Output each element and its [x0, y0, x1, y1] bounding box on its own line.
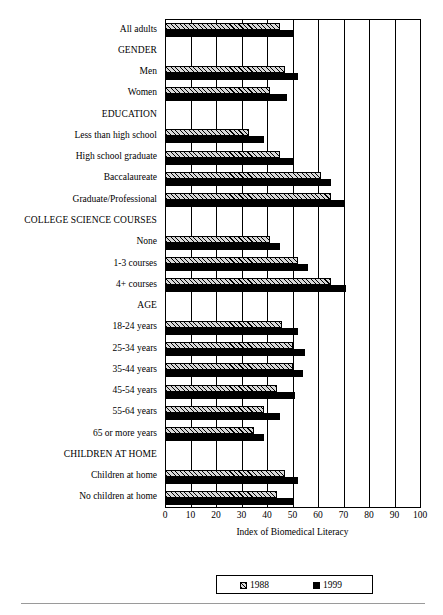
y-axis-label: AGE	[137, 300, 157, 311]
bar-1999	[165, 94, 287, 101]
y-axis-label: GENDER	[118, 45, 157, 56]
bar-row	[165, 321, 420, 335]
bar-1999	[165, 434, 264, 441]
x-tick-label-0: 0	[163, 509, 168, 521]
bar-row	[165, 108, 420, 122]
bar-row	[165, 491, 420, 505]
y-axis-label: Graduate/Professional	[73, 194, 157, 205]
legend-item-1988: 1988	[240, 579, 269, 591]
bar-row	[165, 342, 420, 356]
bar-row	[165, 87, 420, 101]
bar-1988	[165, 193, 331, 200]
bar-1999	[165, 370, 303, 377]
legend-label-1988: 1988	[250, 579, 269, 591]
x-tick-label-10: 10	[186, 509, 196, 521]
y-axis-label: Men	[140, 66, 157, 77]
bar-row	[165, 44, 420, 58]
bar-row	[165, 427, 420, 441]
bar-1999	[165, 243, 280, 250]
figure-container: All adultsGENDERMenWomenEDUCATIONLess th…	[0, 0, 443, 615]
x-tick-label-30: 30	[237, 509, 247, 521]
chart-legend: 1988 1999	[216, 575, 373, 594]
x-axis-title: Index of Biomedical Literacy	[165, 527, 420, 537]
gridline-100	[420, 19, 421, 508]
bar-1999	[165, 413, 280, 420]
bar-1988	[165, 129, 249, 136]
x-tick-label-90: 90	[390, 509, 400, 521]
y-axis-labels: All adultsGENDERMenWomenEDUCATIONLess th…	[0, 19, 161, 508]
bar-1999	[165, 264, 308, 271]
y-axis-label: 18-24 years	[112, 321, 157, 332]
plot-area	[165, 19, 420, 508]
bar-1999	[165, 30, 293, 37]
legend-item-1999: 1999	[313, 579, 342, 591]
y-axis-label: None	[136, 236, 157, 247]
bar-1999	[165, 285, 346, 292]
bar-1988	[165, 172, 321, 179]
bar-1988	[165, 257, 298, 264]
y-axis-label: 25-34 years	[112, 343, 157, 354]
x-tick-label-70: 70	[339, 509, 349, 521]
footer-divider	[21, 603, 425, 604]
bar-row	[165, 193, 420, 207]
x-tick-label-20: 20	[211, 509, 221, 521]
bar-1988	[165, 278, 331, 285]
y-axis-label: CHILDREN AT HOME	[64, 449, 157, 460]
bar-row	[165, 172, 420, 186]
bar-1999	[165, 179, 331, 186]
x-axis-tick-labels: 0102030405060708090100	[165, 509, 420, 523]
bar-row	[165, 448, 420, 462]
bar-1988	[165, 66, 285, 73]
x-tick-label-40: 40	[262, 509, 272, 521]
bar-row	[165, 470, 420, 484]
legend-label-1999: 1999	[323, 579, 342, 591]
bar-1999	[165, 477, 298, 484]
bar-1999	[165, 349, 305, 356]
bar-row	[165, 151, 420, 165]
y-axis-label: Baccalaureate	[104, 172, 157, 183]
x-tick-label-50: 50	[288, 509, 298, 521]
y-axis-label: 35-44 years	[112, 364, 157, 375]
bar-1999	[165, 73, 298, 80]
x-tick-label-100: 100	[413, 509, 427, 521]
bars-group	[165, 19, 420, 508]
bar-1988	[165, 23, 280, 30]
y-axis-label: 45-54 years	[112, 385, 157, 396]
hatched-square-icon	[240, 582, 247, 589]
y-axis-label: EDUCATION	[102, 109, 157, 120]
bar-1999	[165, 200, 344, 207]
y-axis-label: COLLEGE SCIENCE COURSES	[24, 215, 157, 226]
bar-row	[165, 66, 420, 80]
bar-1999	[165, 498, 293, 505]
bar-1999	[165, 136, 264, 143]
bar-1988	[165, 342, 293, 349]
bar-1988	[165, 87, 270, 94]
y-axis-label: 65 or more years	[93, 428, 157, 439]
bar-row	[165, 363, 420, 377]
y-axis-label: Less than high school	[74, 130, 157, 141]
y-axis-label: 55-64 years	[112, 406, 157, 417]
bar-row	[165, 214, 420, 228]
y-axis-label: Children at home	[91, 470, 157, 481]
bar-row	[165, 23, 420, 37]
bar-1988	[165, 491, 277, 498]
bar-row	[165, 278, 420, 292]
solid-square-icon	[313, 582, 320, 589]
bar-row	[165, 236, 420, 250]
bar-1999	[165, 328, 298, 335]
x-tick-label-80: 80	[364, 509, 374, 521]
bar-row	[165, 129, 420, 143]
y-axis-label: 4+ courses	[116, 279, 157, 290]
y-axis-label: 1-3 courses	[113, 258, 157, 269]
x-tick-label-60: 60	[313, 509, 323, 521]
bar-1988	[165, 385, 277, 392]
bar-1988	[165, 363, 293, 370]
bar-row	[165, 406, 420, 420]
bar-1988	[165, 470, 285, 477]
bar-1988	[165, 427, 254, 434]
bar-row	[165, 385, 420, 399]
bar-1999	[165, 392, 295, 399]
bar-1988	[165, 321, 282, 328]
y-axis-label: All adults	[120, 24, 157, 35]
bar-1988	[165, 406, 264, 413]
